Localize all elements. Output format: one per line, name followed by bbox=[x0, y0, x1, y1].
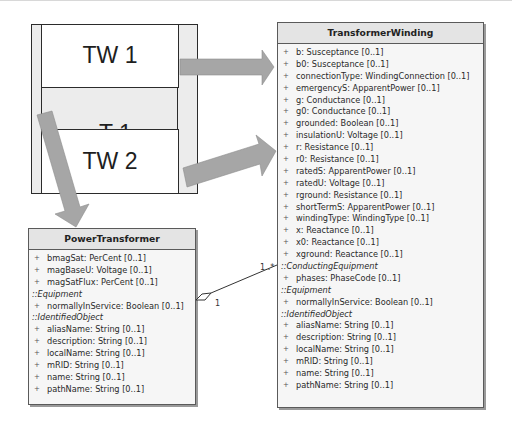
multiplicity-transformer-winding-end: 1..* bbox=[260, 263, 274, 272]
arrow-t1-to-power-transformer bbox=[37, 111, 89, 227]
aggregation-diamond-icon bbox=[196, 293, 211, 300]
connectors-layer bbox=[0, 0, 512, 426]
multiplicity-power-transformer-end: 1 bbox=[215, 299, 220, 308]
arrow-tw1-to-transformer-winding bbox=[180, 50, 274, 85]
arrow-tw2-to-transformer-winding bbox=[183, 135, 276, 187]
